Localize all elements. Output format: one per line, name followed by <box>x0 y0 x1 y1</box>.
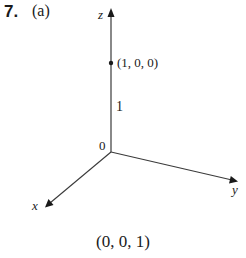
y-axis-label: y <box>232 183 238 196</box>
point-marker <box>109 61 113 65</box>
point-label: (1, 0, 0) <box>117 56 158 69</box>
caption: (0, 0, 1) <box>0 232 246 252</box>
z-axis-label: z <box>98 8 103 21</box>
origin-label: 0 <box>99 139 106 152</box>
tick-label: 1 <box>116 100 123 114</box>
x-axis-arrow-icon <box>45 199 54 208</box>
x-axis-label: x <box>32 199 38 212</box>
x-axis <box>50 152 111 203</box>
y-axis <box>111 152 232 180</box>
coordinate-axes <box>0 0 246 258</box>
z-axis-arrow-icon <box>108 8 115 17</box>
